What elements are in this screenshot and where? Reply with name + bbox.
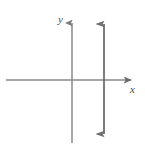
x-axis-label: x	[130, 84, 135, 95]
y-axis-label: y	[58, 14, 63, 25]
coordinate-plane-svg	[0, 0, 145, 153]
graph-figure: y x	[0, 0, 145, 153]
